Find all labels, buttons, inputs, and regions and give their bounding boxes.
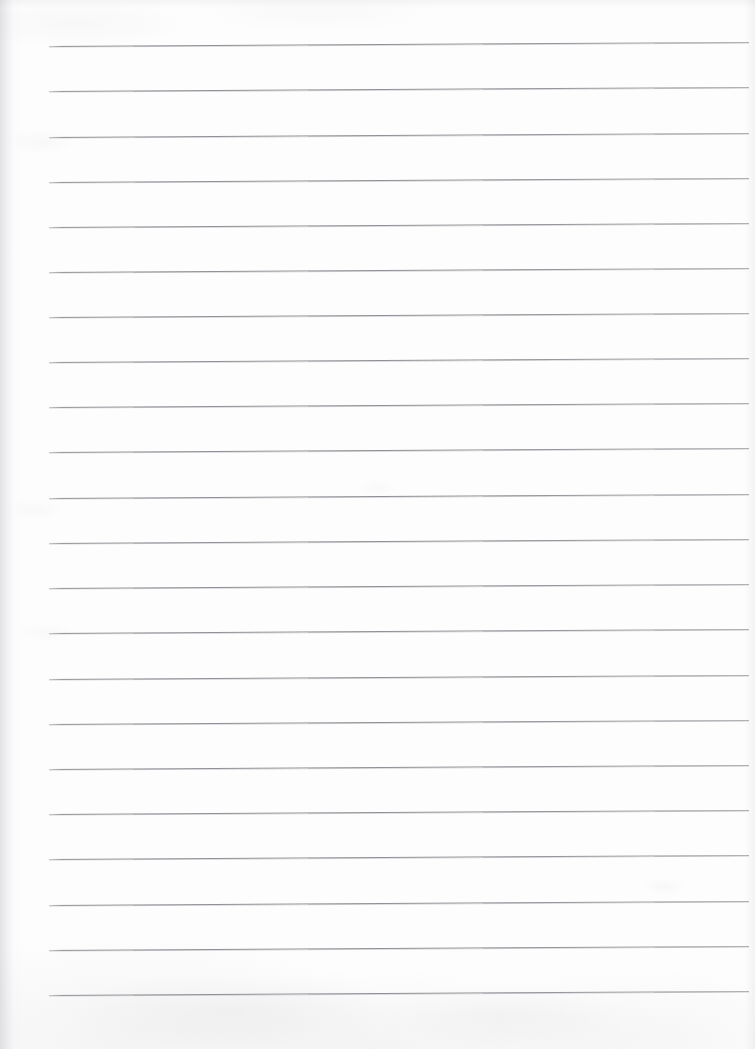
paper-background [0, 0, 755, 1049]
scanned-page [0, 0, 755, 1049]
